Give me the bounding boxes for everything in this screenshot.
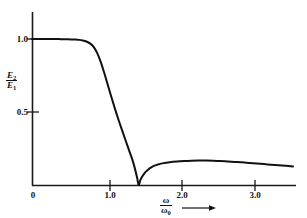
x-tick-label-2: 2.0 — [176, 191, 187, 200]
y-axis-label: E2 E1 — [6, 71, 17, 91]
y-axis-label-denominator: E1 — [6, 80, 17, 90]
data-curve — [32, 39, 293, 185]
x-axis-label: ω ω0 — [160, 196, 172, 216]
y-tick-label-1: 1.0 — [10, 35, 28, 44]
chart-figure: 1.0 0.5 0 1.0 2.0 3.0 E2 E1 ω ω0 — [0, 0, 307, 218]
x-axis-label-denominator: ω0 — [160, 205, 172, 215]
x-tick-label-1: 1.0 — [104, 191, 115, 200]
x-tick-label-0: 0 — [31, 191, 36, 200]
x-tick-label-3: 3.0 — [249, 191, 260, 200]
arrow-right-icon — [182, 204, 216, 212]
y-tick-label-0.5: 0.5 — [10, 108, 28, 117]
y-axis-label-numerator: E2 — [6, 71, 17, 80]
plot-canvas — [0, 0, 307, 218]
x-axis-label-numerator: ω — [160, 196, 172, 205]
